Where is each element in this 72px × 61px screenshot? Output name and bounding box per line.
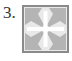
shrink-arrows-icon: [22, 5, 69, 53]
item-number-label: 3.: [3, 3, 16, 23]
